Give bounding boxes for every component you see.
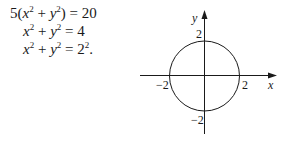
x-tick-neg-label: −2	[156, 78, 169, 92]
x-axis-label: x	[267, 78, 274, 92]
y-axis-arrow-icon	[202, 10, 208, 19]
y-axis-label: y	[191, 11, 198, 25]
y-tick-pos-label: 2	[196, 27, 202, 41]
y-tick-neg-label: −2	[191, 113, 204, 127]
x-tick-pos-label: 2	[242, 78, 248, 92]
circle-graph: y 2 −2 −2 2 x	[0, 0, 294, 144]
